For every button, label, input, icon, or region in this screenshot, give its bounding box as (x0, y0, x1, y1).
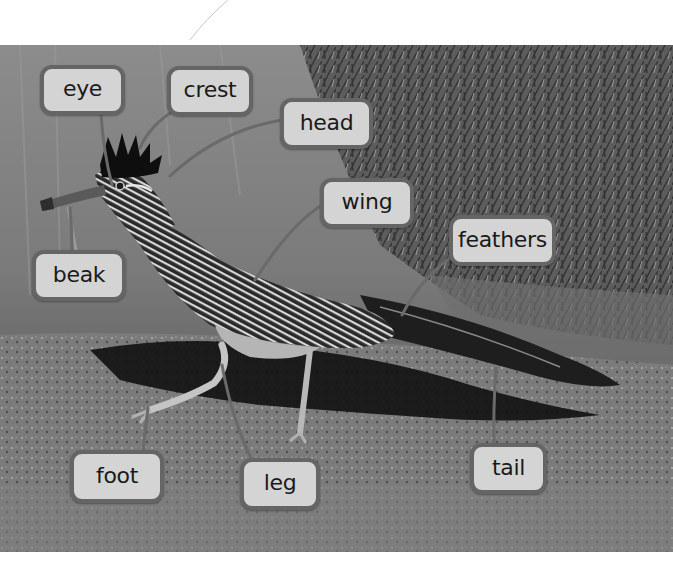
label-head: head (280, 98, 373, 149)
label-eye: eye (40, 65, 125, 115)
label-head-text: head (300, 112, 354, 136)
label-beak: beak (32, 250, 126, 301)
label-leg-text: leg (264, 472, 297, 496)
label-eye-text: eye (63, 78, 102, 102)
label-tail-text: tail (492, 457, 525, 481)
label-wing-text: wing (342, 191, 393, 215)
label-feathers: feathers (449, 215, 556, 266)
label-beak-text: beak (53, 264, 106, 288)
label-leg: leg (240, 458, 320, 510)
label-foot: foot (70, 450, 164, 503)
label-wing: wing (320, 178, 414, 228)
label-crest: crest (167, 66, 253, 116)
label-foot-text: foot (96, 465, 138, 489)
label-tail: tail (470, 443, 547, 494)
label-crest-text: crest (184, 79, 237, 103)
stray-line-top (190, 0, 230, 40)
label-feathers-text: feathers (458, 229, 547, 253)
